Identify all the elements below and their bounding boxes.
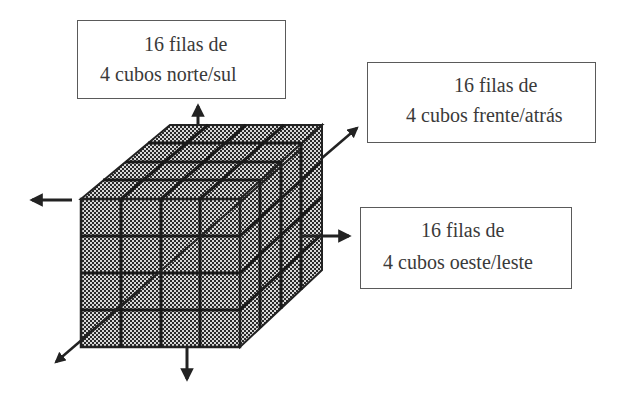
label-front-back-line2: 4 cubos frente/atrás bbox=[406, 102, 563, 128]
label-north-south: 16 filas de 4 cubos norte/sul bbox=[77, 20, 286, 99]
label-north-south-line1: 16 filas de bbox=[144, 31, 227, 57]
label-front-back-line1: 16 filas de bbox=[454, 72, 537, 98]
diagonal-back-arrow bbox=[322, 128, 357, 158]
label-north-south-line2: 4 cubos norte/sul bbox=[100, 61, 237, 87]
label-west-east-line1: 16 filas de bbox=[421, 217, 504, 243]
label-west-east-line2: 4 cubos oeste/leste bbox=[383, 249, 533, 275]
label-west-east: 16 filas de 4 cubos oeste/leste bbox=[360, 207, 572, 289]
label-front-back: 16 filas de 4 cubos frente/atrás bbox=[367, 62, 596, 143]
